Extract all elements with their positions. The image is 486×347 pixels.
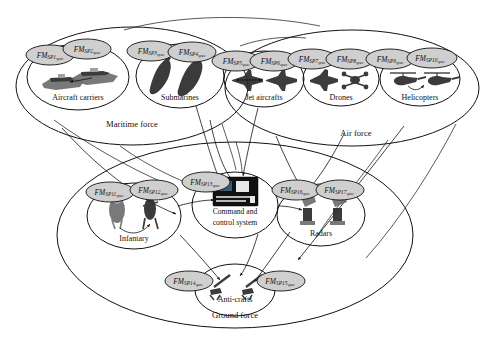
group-label-drones: Drones bbox=[329, 93, 352, 102]
group-label-radars: Radars bbox=[310, 229, 332, 238]
group-label-aircraft-carriers: Aircraft carriers bbox=[52, 93, 103, 102]
spec-badge-sp17[interactable]: FMSP17spec bbox=[316, 180, 364, 200]
group-label-command-and-control-system-line2: control system bbox=[213, 218, 258, 227]
group-label-jet-aircrafts: Jet aircrafts bbox=[245, 93, 282, 102]
spec-badge-sp16[interactable]: FMSP16spec bbox=[272, 180, 320, 200]
group-boundary-anti-crafts bbox=[195, 264, 275, 316]
spec-badge-sp2[interactable]: FMSP2spec bbox=[63, 39, 111, 59]
group-label-anti-crafts: Anti-crafts bbox=[218, 295, 253, 304]
force-label-maritime: Maritime force bbox=[106, 119, 158, 129]
force-label-air: Air force bbox=[340, 128, 371, 138]
group-label-helicopters: Helicopters bbox=[402, 93, 439, 102]
aircraft-carrier-icon bbox=[72, 68, 118, 85]
spec-badge-sp4[interactable]: FMSP4spec bbox=[168, 42, 216, 62]
helicopter-icon bbox=[424, 73, 460, 85]
drone-icon bbox=[342, 72, 369, 90]
spec-badge-sp10[interactable]: FMSP10spec bbox=[407, 48, 457, 68]
spec-badge-sp12[interactable]: FMSP12spec bbox=[130, 180, 178, 200]
jet-aircraft-icon bbox=[232, 70, 263, 91]
force-label-ground: Ground force bbox=[212, 310, 258, 320]
diagram-canvas: FMSP1spec FMSP2spec FMSP3spec FMSP4spec … bbox=[0, 0, 486, 347]
spec-badge-sp11[interactable]: FMSP11spec bbox=[86, 182, 134, 202]
drone-icon bbox=[310, 69, 338, 91]
group-label-command-and-control-system-line1: Command and bbox=[213, 207, 258, 216]
radar-dish-icon bbox=[300, 196, 316, 225]
group-label-infantary: Infantary bbox=[119, 234, 148, 243]
spec-badge-sp13[interactable]: FMSP13spec bbox=[182, 172, 230, 192]
spec-badge-sp15[interactable]: FMSP15spec bbox=[257, 271, 305, 291]
submarine-icon bbox=[150, 56, 171, 94]
spec-badge-sp14[interactable]: FMSP14spec bbox=[165, 271, 213, 291]
group-label-submarines: Submarines bbox=[161, 93, 199, 102]
jet-aircraft-icon bbox=[266, 70, 297, 91]
helicopter-icon bbox=[390, 73, 426, 85]
